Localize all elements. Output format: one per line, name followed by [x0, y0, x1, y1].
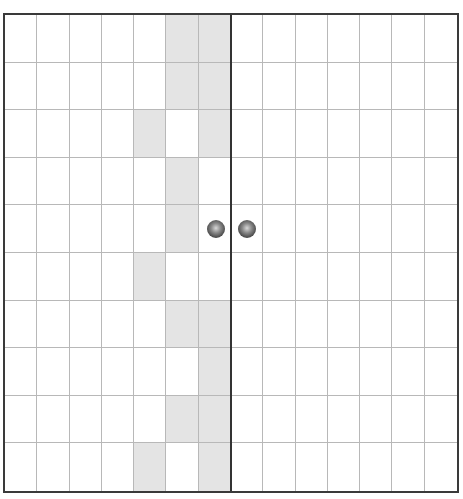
board-cell[interactable]: [102, 15, 134, 63]
board-cell[interactable]: [70, 443, 102, 491]
board-cell[interactable]: [392, 110, 424, 158]
board-cell[interactable]: [328, 301, 360, 349]
board-cell[interactable]: [70, 110, 102, 158]
board-cell[interactable]: [37, 205, 69, 253]
board-cell[interactable]: [70, 396, 102, 444]
board-cell[interactable]: [37, 158, 69, 206]
board-cell[interactable]: [263, 396, 295, 444]
board-cell[interactable]: [425, 301, 457, 349]
shaded-cell[interactable]: [199, 443, 231, 491]
board-cell[interactable]: [425, 158, 457, 206]
board-cell[interactable]: [102, 253, 134, 301]
board-cell[interactable]: [102, 301, 134, 349]
board-cell[interactable]: [134, 205, 166, 253]
shaded-cell[interactable]: [134, 253, 166, 301]
board-cell[interactable]: [70, 348, 102, 396]
board-cell[interactable]: [392, 158, 424, 206]
board-cell[interactable]: [263, 158, 295, 206]
shaded-cell[interactable]: [134, 110, 166, 158]
board-cell[interactable]: [392, 63, 424, 111]
board-cell[interactable]: [37, 63, 69, 111]
shaded-cell[interactable]: [199, 110, 231, 158]
board-cell[interactable]: [328, 205, 360, 253]
board-cell[interactable]: [328, 443, 360, 491]
board-cell[interactable]: [5, 110, 37, 158]
shaded-cell[interactable]: [134, 443, 166, 491]
board-cell[interactable]: [134, 301, 166, 349]
board-cell[interactable]: [296, 63, 328, 111]
board-cell[interactable]: [425, 348, 457, 396]
shaded-cell[interactable]: [199, 301, 231, 349]
board-cell[interactable]: [231, 443, 263, 491]
board-cell[interactable]: [360, 348, 392, 396]
board-cell[interactable]: [296, 348, 328, 396]
board-cell[interactable]: [231, 158, 263, 206]
board-cell[interactable]: [102, 205, 134, 253]
board-cell[interactable]: [5, 443, 37, 491]
board-cell[interactable]: [37, 301, 69, 349]
board-cell[interactable]: [263, 205, 295, 253]
board-cell[interactable]: [360, 253, 392, 301]
board-cell[interactable]: [5, 15, 37, 63]
board-cell[interactable]: [360, 110, 392, 158]
board-cell[interactable]: [263, 15, 295, 63]
board-cell[interactable]: [231, 253, 263, 301]
board-cell[interactable]: [37, 443, 69, 491]
board-cell[interactable]: [360, 443, 392, 491]
board-cell[interactable]: [5, 63, 37, 111]
board-cell[interactable]: [263, 253, 295, 301]
board-cell[interactable]: [166, 348, 198, 396]
board-cell[interactable]: [199, 253, 231, 301]
board-cell[interactable]: [102, 110, 134, 158]
shaded-cell[interactable]: [199, 348, 231, 396]
board-cell[interactable]: [37, 253, 69, 301]
board-cell[interactable]: [296, 15, 328, 63]
board-cell[interactable]: [231, 396, 263, 444]
shaded-cell[interactable]: [166, 396, 198, 444]
board-cell[interactable]: [425, 443, 457, 491]
board-cell[interactable]: [263, 443, 295, 491]
board-cell[interactable]: [263, 110, 295, 158]
board-cell[interactable]: [328, 253, 360, 301]
board-cell[interactable]: [425, 396, 457, 444]
board-cell[interactable]: [296, 443, 328, 491]
board-cell[interactable]: [134, 158, 166, 206]
board-cell[interactable]: [5, 301, 37, 349]
board-cell[interactable]: [296, 158, 328, 206]
board-cell[interactable]: [392, 253, 424, 301]
board-cell[interactable]: [263, 301, 295, 349]
board-cell[interactable]: [37, 110, 69, 158]
board-cell[interactable]: [37, 396, 69, 444]
board-cell[interactable]: [360, 63, 392, 111]
board-cell[interactable]: [134, 396, 166, 444]
board-cell[interactable]: [102, 63, 134, 111]
board-cell[interactable]: [37, 348, 69, 396]
shaded-cell[interactable]: [166, 63, 198, 111]
shaded-cell[interactable]: [166, 205, 198, 253]
board-cell[interactable]: [425, 63, 457, 111]
board-cell[interactable]: [5, 205, 37, 253]
board-cell[interactable]: [360, 158, 392, 206]
board-cell[interactable]: [392, 443, 424, 491]
board-cell[interactable]: [392, 396, 424, 444]
shaded-cell[interactable]: [199, 396, 231, 444]
board-cell[interactable]: [5, 158, 37, 206]
board-cell[interactable]: [5, 396, 37, 444]
board-cell[interactable]: [328, 158, 360, 206]
board-cell[interactable]: [425, 205, 457, 253]
board-cell[interactable]: [102, 348, 134, 396]
board-cell[interactable]: [392, 348, 424, 396]
board-cell[interactable]: [70, 253, 102, 301]
board-cell[interactable]: [37, 15, 69, 63]
board-cell[interactable]: [134, 63, 166, 111]
board-cell[interactable]: [231, 348, 263, 396]
board-cell[interactable]: [360, 205, 392, 253]
shaded-cell[interactable]: [166, 301, 198, 349]
board-cell[interactable]: [166, 443, 198, 491]
board-cell[interactable]: [360, 396, 392, 444]
board-cell[interactable]: [134, 15, 166, 63]
board-cell[interactable]: [296, 205, 328, 253]
shaded-cell[interactable]: [166, 15, 198, 63]
board-cell[interactable]: [328, 63, 360, 111]
board-cell[interactable]: [166, 253, 198, 301]
